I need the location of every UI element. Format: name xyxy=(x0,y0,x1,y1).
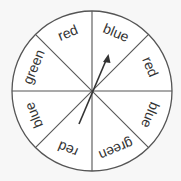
section-dividers xyxy=(12,11,172,171)
spinner-diagram: blueredbluegreenredbluegreenred xyxy=(0,0,181,181)
